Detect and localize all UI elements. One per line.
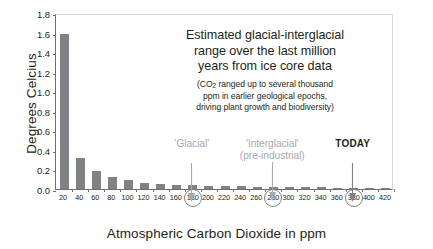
bar [76, 158, 85, 189]
chart-container: Degrees Celcius Atmospheric Carbon Dioxi… [0, 0, 433, 249]
y-tick-label: 1.6 [24, 28, 50, 39]
down-arrow-icon [187, 163, 196, 203]
down-arrow-icon [268, 162, 277, 202]
y-tick-mark [53, 152, 56, 153]
bar [60, 34, 69, 189]
x-tick-mark [120, 189, 121, 192]
x-tick-mark [104, 189, 105, 192]
y-tick-mark [53, 191, 56, 192]
y-tick-label: 1.0 [24, 87, 50, 98]
y-tick-mark [53, 171, 56, 172]
x-tick-mark [72, 189, 73, 192]
bar [92, 171, 101, 189]
x-tick-mark [88, 189, 89, 192]
y-tick-label: 0.2 [24, 165, 50, 176]
pointer-today-arrow [293, 163, 413, 203]
y-tick-label: 1.8 [24, 9, 50, 20]
y-tick-mark [53, 93, 56, 94]
y-tick-mark [53, 132, 56, 133]
annotation-sub-line-1: (CO2 ranged up to several thousand [150, 79, 380, 91]
annotation-main-line-3: years from ice core data [150, 59, 380, 75]
annotation-sub-line-3: driving plant growth and biodiversity) [150, 102, 380, 113]
y-tick-mark [53, 113, 56, 114]
y-tick-label: 1.2 [24, 67, 50, 78]
chart-annotation-note: Estimated glacial-interglacial range ove… [150, 28, 380, 113]
x-axis-title: Atmospheric Carbon Dioxide in ppm [0, 226, 433, 241]
annotation-main-line-1: Estimated glacial-interglacial [150, 28, 380, 44]
y-tick-label: 0.4 [24, 145, 50, 156]
y-tick-label: 0.6 [24, 126, 50, 137]
y-tick-mark [53, 35, 56, 36]
y-tick-label: 0.0 [24, 185, 50, 196]
annotation-main-line-2: range over the last million [150, 44, 380, 60]
y-tick-label: 0.8 [24, 106, 50, 117]
annotation-sub-line-2: ppm in earlier geological epochs, [150, 91, 380, 102]
y-tick-mark [53, 15, 56, 16]
pointer-today-label: TODAY [293, 138, 413, 150]
pointer-today: TODAY [293, 138, 413, 203]
bar [108, 177, 117, 189]
y-tick-mark [53, 54, 56, 55]
y-tick-label: 1.4 [24, 48, 50, 59]
down-arrow-icon [348, 163, 357, 203]
y-tick-mark [53, 74, 56, 75]
